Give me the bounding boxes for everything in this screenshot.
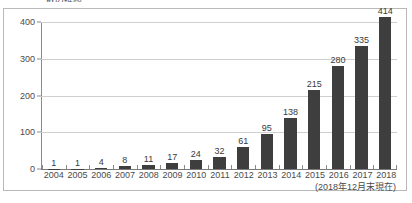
x-tick-label: 2017 <box>351 170 375 181</box>
bar-slot: 1 <box>42 22 66 169</box>
bar-slot: 17 <box>160 22 184 169</box>
x-tick-label: 2005 <box>66 170 90 181</box>
bar-value-label: 32 <box>215 147 225 156</box>
bar-value-label: 61 <box>238 137 248 146</box>
bar-slot: 280 <box>326 22 350 169</box>
x-tick-cell <box>350 165 374 169</box>
x-axis-labels: 2004200520062007200820092010201120122013… <box>42 170 398 181</box>
bar[interactable]: 414 <box>379 17 391 169</box>
x-tick-cell <box>137 165 161 169</box>
bar-value-label: 11 <box>144 155 153 164</box>
bar[interactable]: 280 <box>332 66 344 169</box>
bar-value-label: 95 <box>262 124 272 133</box>
bar-value-label: 335 <box>354 36 369 45</box>
x-tick-label: 2006 <box>89 170 113 181</box>
x-tick-label: 2007 <box>113 170 137 181</box>
x-tick-cell <box>42 165 66 169</box>
x-tick-label: 2012 <box>232 170 256 181</box>
bar[interactable]: 95 <box>261 134 273 169</box>
x-tick-cell <box>279 165 303 169</box>
x-tick-cell <box>302 165 326 169</box>
x-tick-end <box>396 165 397 169</box>
x-tick-cell <box>208 165 232 169</box>
x-tick-cell <box>231 165 255 169</box>
y-tick-mark <box>37 22 41 23</box>
x-tick-label: 2016 <box>327 170 351 181</box>
chart-frame: 0100200300400 11481117243261951382152803… <box>3 8 407 191</box>
x-tick-cell <box>373 165 397 169</box>
x-tick-cell <box>89 165 113 169</box>
bar[interactable]: 215 <box>308 90 320 169</box>
bar-slot: 4 <box>89 22 113 169</box>
bar-series: 1148111724326195138215280335414 <box>42 22 397 169</box>
x-tick-cell <box>66 165 90 169</box>
x-tick-cell <box>255 165 279 169</box>
bar-slot: 138 <box>279 22 303 169</box>
x-tick-cell <box>160 165 184 169</box>
bar-slot: 215 <box>302 22 326 169</box>
bar-slot: 61 <box>231 22 255 169</box>
bar-value-label: 280 <box>330 56 345 65</box>
x-tick-label: 2014 <box>279 170 303 181</box>
bar-slot: 32 <box>208 22 232 169</box>
plot-inner: 0100200300400 11481117243261951382152803… <box>41 22 397 169</box>
chart-page: 数の推移 0100200300400 114811172432619513821… <box>0 0 412 203</box>
x-axis-ticks <box>42 165 397 169</box>
bar[interactable]: 335 <box>355 46 367 169</box>
x-tick-cell <box>326 165 350 169</box>
page-heading: 数の推移 <box>46 0 82 2</box>
x-tick-label: 2018 <box>374 170 398 181</box>
y-tick-mark <box>37 169 41 170</box>
plot-area: 0100200300400 11481117243261951382152803… <box>41 22 397 169</box>
x-tick-label: 2009 <box>161 170 185 181</box>
x-tick-label: 2010 <box>184 170 208 181</box>
y-tick-mark <box>37 58 41 59</box>
bar[interactable]: 138 <box>284 118 296 169</box>
bar-value-label: 414 <box>378 7 393 16</box>
bar-slot: 1 <box>66 22 90 169</box>
y-tick-mark <box>37 132 41 133</box>
bar-slot: 11 <box>137 22 161 169</box>
bar-value-label: 17 <box>167 153 177 162</box>
y-tick-mark <box>37 95 41 96</box>
x-tick-label: 2013 <box>256 170 280 181</box>
x-tick-label: 2015 <box>303 170 327 181</box>
bar-value-label: 215 <box>307 80 322 89</box>
bar-value-label: 8 <box>122 156 127 165</box>
x-tick-label: 2011 <box>208 170 232 181</box>
bar-slot: 95 <box>255 22 279 169</box>
bar-slot: 8 <box>113 22 137 169</box>
bar-slot: 335 <box>350 22 374 169</box>
bar-slot: 24 <box>184 22 208 169</box>
x-tick-label: 2004 <box>42 170 66 181</box>
x-tick-cell <box>184 165 208 169</box>
bar-slot: 414 <box>373 22 397 169</box>
bar-value-label: 138 <box>283 108 298 117</box>
bar-value-label: 24 <box>191 150 201 159</box>
x-tick-label: 2008 <box>137 170 161 181</box>
x-tick-cell <box>113 165 137 169</box>
chart-footnote: (2018年12月末現在) <box>315 182 396 193</box>
